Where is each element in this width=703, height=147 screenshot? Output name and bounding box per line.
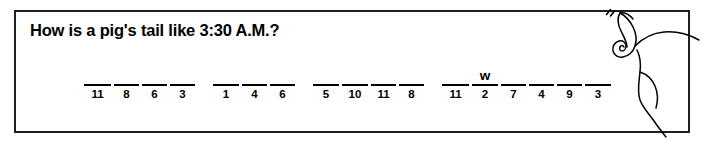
answer-blank-line[interactable]: [114, 84, 139, 86]
answer-blank-cell[interactable]: w2: [472, 68, 498, 101]
answer-blanks-row: 1186314651011811w27493: [84, 68, 614, 101]
answer-word-group: 11863: [84, 68, 198, 101]
answer-blank-cell[interactable]: 10: [342, 68, 368, 101]
answer-blank-line[interactable]: [371, 84, 396, 86]
answer-blank-number: 2: [472, 88, 498, 101]
answer-blank-number: 1: [213, 88, 239, 101]
answer-blank-line[interactable]: [270, 84, 295, 86]
answer-blank-letter: w: [480, 68, 491, 84]
answer-blank-number: 8: [399, 88, 424, 101]
answer-blank-cell[interactable]: 5: [313, 68, 339, 101]
answer-blank-number: 3: [585, 88, 611, 101]
answer-blank-number: 11: [371, 88, 396, 101]
answer-blank-line[interactable]: [213, 84, 239, 86]
answer-blank-number: 11: [442, 88, 469, 101]
answer-word-group: 510118: [313, 68, 427, 101]
answer-blank-cell[interactable]: 4: [242, 68, 267, 101]
answer-blank-cell[interactable]: 4: [529, 68, 554, 101]
answer-blank-line[interactable]: [557, 84, 582, 86]
answer-blank-line[interactable]: [472, 84, 498, 86]
answer-blank-number: 6: [142, 88, 167, 101]
answer-blank-number: 6: [270, 88, 295, 101]
answer-blank-cell[interactable]: 6: [270, 68, 295, 101]
answer-blank-line[interactable]: [242, 84, 267, 86]
answer-blank-number: 4: [529, 88, 554, 101]
answer-blank-number: 9: [557, 88, 582, 101]
answer-blank-number: 4: [242, 88, 267, 101]
worksheet-page: How is a pig's tail like 3:30 A.M.? 1186…: [0, 0, 703, 147]
riddle-question: How is a pig's tail like 3:30 A.M.?: [30, 20, 279, 40]
answer-blank-line[interactable]: [585, 84, 611, 86]
answer-blank-line[interactable]: [313, 84, 339, 86]
answer-blank-cell[interactable]: 7: [501, 68, 526, 101]
answer-blank-cell[interactable]: 11: [84, 68, 111, 101]
answer-blank-number: 8: [114, 88, 139, 101]
answer-blank-line[interactable]: [442, 84, 469, 86]
answer-word-group: 11w27493: [442, 68, 614, 101]
answer-blank-line[interactable]: [342, 84, 368, 86]
answer-blank-number: 7: [501, 88, 526, 101]
answer-blank-cell[interactable]: 9: [557, 68, 582, 101]
answer-blank-number: 3: [170, 88, 195, 101]
answer-blank-line[interactable]: [84, 84, 111, 86]
answer-blank-cell[interactable]: 8: [114, 68, 139, 101]
answer-blank-cell[interactable]: 1: [213, 68, 239, 101]
answer-blank-cell[interactable]: 11: [442, 68, 469, 101]
answer-blank-cell[interactable]: 8: [399, 68, 424, 101]
answer-blank-line[interactable]: [399, 84, 424, 86]
answer-blank-line[interactable]: [529, 84, 554, 86]
answer-blank-cell[interactable]: 3: [170, 68, 195, 101]
answer-blank-number: 11: [84, 88, 111, 101]
answer-blank-cell[interactable]: 11: [371, 68, 396, 101]
answer-blank-cell[interactable]: 3: [585, 68, 611, 101]
answer-blank-number: 5: [313, 88, 339, 101]
answer-blank-line[interactable]: [170, 84, 195, 86]
answer-blank-cell[interactable]: 6: [142, 68, 167, 101]
answer-blank-line[interactable]: [501, 84, 526, 86]
answer-blank-line[interactable]: [142, 84, 167, 86]
answer-word-group: 146: [213, 68, 298, 101]
answer-blank-number: 10: [342, 88, 368, 101]
